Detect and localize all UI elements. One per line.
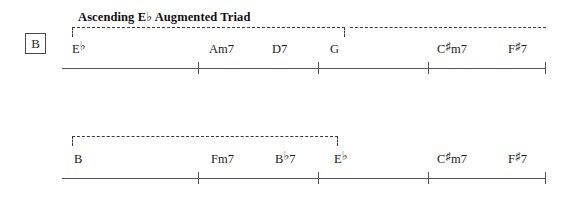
chord-quality: m7: [218, 152, 234, 166]
chord-root: F: [211, 152, 218, 166]
chord-quality: m7: [451, 42, 467, 56]
staff-line-system-2: [62, 178, 546, 179]
barline: [545, 172, 546, 184]
chord-symbol: E♭: [334, 153, 348, 166]
flat-icon: ♭: [342, 149, 348, 163]
barline: [318, 62, 319, 74]
section-label-text: B: [31, 37, 40, 50]
analysis-bracket-system-2: [72, 136, 338, 146]
barline: [428, 62, 429, 74]
barline: [318, 172, 319, 184]
chord-quality: 7: [521, 152, 527, 166]
chord-symbol: Am7: [209, 43, 234, 56]
staff-line-system-1: [62, 68, 546, 69]
chord-symbol: G: [330, 43, 339, 56]
chord-symbol: C♯m7: [437, 43, 467, 56]
chord-quality: m7: [451, 152, 467, 166]
barline: [198, 172, 199, 184]
chord-symbol: C♯m7: [437, 153, 467, 166]
flat-icon: ♭: [80, 39, 86, 53]
chord-quality: 7: [289, 152, 295, 166]
chord-quality: 7: [521, 42, 527, 56]
barline: [198, 62, 199, 74]
analysis-bracket-tail-system-1: [350, 27, 546, 28]
chord-quality: 7: [281, 42, 287, 56]
analysis-bracket-system-1: [72, 27, 345, 37]
chord-root: D: [272, 42, 281, 56]
chord-root: E: [72, 42, 80, 56]
chord-root: A: [209, 42, 218, 56]
barline: [545, 62, 546, 74]
barline: [428, 172, 429, 184]
chord-root: F: [508, 152, 515, 166]
chord-symbol: B: [74, 153, 82, 166]
section-label-box: B: [25, 33, 46, 54]
chord-symbol: F♯7: [508, 43, 527, 56]
chord-symbol: E♭: [72, 43, 86, 56]
chord-symbol: F♯7: [508, 153, 527, 166]
chord-symbol: B♭7: [275, 153, 295, 166]
chord-root: B: [74, 152, 82, 166]
chord-chart-sheet: B Ascending E♭ Augmented Triad E♭Am7D7GC…: [0, 0, 570, 200]
chord-root: G: [330, 42, 339, 56]
chord-root: F: [508, 42, 515, 56]
analysis-caption: Ascending E♭ Augmented Triad: [78, 9, 251, 25]
chord-quality: m7: [218, 42, 234, 56]
chord-root: E: [334, 152, 342, 166]
chord-symbol: Fm7: [211, 153, 234, 166]
chord-symbol: D7: [272, 43, 287, 56]
